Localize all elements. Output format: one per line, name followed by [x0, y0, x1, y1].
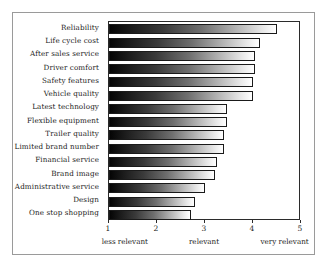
bar-row	[109, 104, 301, 114]
category-label: Driver comfort	[0, 63, 99, 73]
axis-tick-mark	[108, 220, 109, 223]
bar	[109, 130, 224, 140]
category-label: One stop shopping	[0, 208, 99, 218]
axis-tick-label: 5	[290, 224, 310, 233]
bar-row	[109, 91, 301, 101]
category-label: Administrative service	[0, 182, 99, 192]
bar	[109, 144, 224, 154]
bar-row	[109, 130, 301, 140]
bar-row	[109, 51, 301, 61]
bar	[109, 157, 217, 167]
bar	[109, 104, 227, 114]
category-label: After sales service	[0, 49, 99, 59]
bars-container	[109, 22, 299, 219]
axis-tick-mark	[252, 220, 253, 223]
bar-row	[109, 183, 301, 193]
bar	[109, 77, 253, 87]
bar-row	[109, 64, 301, 74]
category-label: Reliability	[0, 23, 99, 33]
plot-area	[108, 21, 300, 220]
category-label: Design	[0, 195, 99, 205]
axis-tick-label: 3	[194, 224, 214, 233]
axis-annotation: very relevant	[240, 237, 328, 246]
category-label: Brand image	[0, 169, 99, 179]
category-label: Safety features	[0, 76, 99, 86]
bar	[109, 170, 215, 180]
bar-row	[109, 144, 301, 154]
axis-tick-label: 2	[146, 224, 166, 233]
bar	[109, 117, 227, 127]
bar	[109, 197, 195, 207]
value-axis: 12345less relevantrelevantvery relevant	[108, 220, 300, 260]
bar-row	[109, 197, 301, 207]
axis-tick-mark	[156, 220, 157, 223]
category-label: Life cycle cost	[0, 36, 99, 46]
bar	[109, 91, 253, 101]
category-axis-labels: ReliabilityLife cycle costAfter sales se…	[0, 21, 104, 220]
bar-row	[109, 38, 301, 48]
bar	[109, 51, 255, 61]
category-label: Latest technology	[0, 102, 99, 112]
bar	[109, 64, 255, 74]
bar-row	[109, 77, 301, 87]
bar-row	[109, 24, 301, 34]
bar	[109, 38, 260, 48]
chart-figure: ReliabilityLife cycle costAfter sales se…	[0, 0, 328, 268]
bar-row	[109, 157, 301, 167]
category-label: Vehicle quality	[0, 89, 99, 99]
axis-annotation: relevant	[159, 237, 249, 246]
axis-annotation: less relevant	[80, 237, 170, 246]
axis-tick-mark	[300, 220, 301, 223]
category-label: Limited brand number	[0, 142, 99, 152]
bar	[109, 210, 191, 220]
axis-tick-label: 1	[98, 224, 118, 233]
bar-row	[109, 117, 301, 127]
category-label: Financial service	[0, 155, 99, 165]
bar-row	[109, 170, 301, 180]
bar	[109, 24, 277, 34]
axis-tick-label: 4	[242, 224, 262, 233]
bar-row	[109, 210, 301, 220]
category-label: Trailer quality	[0, 129, 99, 139]
axis-tick-mark	[204, 220, 205, 223]
category-label: Flexible equipment	[0, 116, 99, 126]
bar	[109, 183, 205, 193]
